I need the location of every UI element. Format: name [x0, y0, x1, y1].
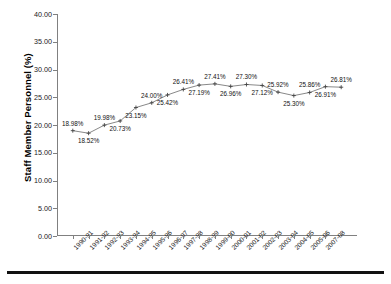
data-point-label: 19.98%: [94, 114, 115, 121]
data-point-label: 27.41%: [204, 73, 225, 80]
data-point-marker: [308, 90, 312, 94]
y-axis-title: Staff Member Personnel (%): [22, 18, 33, 218]
data-point-label: 18.98%: [62, 120, 83, 127]
data-series: [57, 14, 357, 236]
data-point-marker: [71, 129, 75, 133]
y-tick-label: 5.00: [0, 204, 52, 213]
y-tick-label: 40.00: [0, 10, 52, 19]
data-point-label: 18.52%: [78, 137, 99, 144]
footer-rule: [7, 271, 384, 274]
data-point-marker: [197, 83, 201, 87]
data-point-marker: [244, 82, 248, 86]
data-point-marker: [166, 93, 170, 97]
data-point-marker: [102, 123, 106, 127]
data-point-label: 25.30%: [283, 100, 304, 107]
y-tick-label: 35.00: [0, 37, 52, 46]
y-tick-label: 15.00: [0, 148, 52, 157]
data-point-label: 20.73%: [109, 125, 130, 132]
y-tick-label: 0.00: [0, 232, 52, 241]
data-point-marker: [213, 82, 217, 86]
data-point-label: 24.00%: [141, 92, 162, 99]
data-point-marker: [323, 85, 327, 89]
data-point-marker: [229, 84, 233, 88]
data-point-label: 23.15%: [125, 112, 146, 119]
data-point-label: 25.86%: [299, 81, 320, 88]
data-point-marker: [150, 101, 154, 105]
y-tick-label: 20.00: [0, 121, 52, 130]
data-point-label: 26.91%: [315, 91, 336, 98]
data-point-label: 27.30%: [236, 73, 257, 80]
data-point-marker: [276, 90, 280, 94]
data-point-label: 25.42%: [157, 99, 178, 106]
y-tick-label: 10.00: [0, 176, 52, 185]
data-point-label: 26.81%: [331, 76, 352, 83]
data-point-label: 27.19%: [188, 89, 209, 96]
data-point-marker: [260, 83, 264, 87]
data-point-label: 26.96%: [220, 90, 241, 97]
data-point-marker: [181, 87, 185, 91]
data-point-marker: [292, 94, 296, 98]
data-point-label: 26.41%: [173, 78, 194, 85]
y-tick-mark: [53, 236, 57, 237]
data-point-label: 25.92%: [267, 81, 288, 88]
chart-figure: Staff Member Personnel (%) 40.0035.0030.…: [0, 0, 391, 284]
y-tick-label: 30.00: [0, 65, 52, 74]
y-tick-label: 25.00: [0, 93, 52, 102]
plot-area: 40.0035.0030.0025.0020.0015.0010.005.000…: [57, 14, 357, 236]
data-point-marker: [339, 85, 343, 89]
data-point-label: 27.12%: [252, 89, 273, 96]
data-point-marker: [87, 131, 91, 135]
